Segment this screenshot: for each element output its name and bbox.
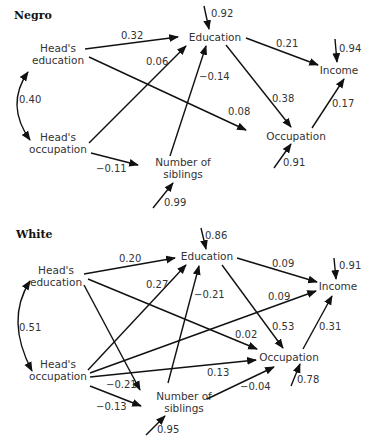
- node-income: Income: [319, 280, 358, 292]
- node-heads-occupation-line2: occupation: [29, 143, 87, 155]
- coef-heads-edu-siblings: −0.21: [106, 379, 137, 390]
- node-siblings-line2: siblings: [164, 402, 204, 414]
- coef-heads-occ-education: 0.27: [146, 279, 168, 290]
- node-siblings-line1: Number of: [155, 156, 211, 168]
- node-occupation: Occupation: [266, 130, 326, 142]
- coef-heads-edu-education: 0.20: [119, 253, 141, 264]
- node-heads-education-line1: Head's: [40, 42, 76, 54]
- panel-negro: Negro Head's education Head's occupation…: [14, 6, 361, 208]
- coef-occupation-income: 0.17: [332, 98, 354, 109]
- edge-heads-occ-to-education: [89, 46, 186, 143]
- node-heads-occupation-line1: Head's: [40, 131, 76, 143]
- node-heads-education-line1: Head's: [38, 264, 74, 276]
- node-occupation: Occupation: [259, 351, 319, 363]
- node-siblings-line2: siblings: [163, 168, 203, 180]
- node-education: Education: [181, 250, 233, 262]
- edge-siblings-to-education: [168, 266, 199, 383]
- coef-siblings-occupation: −0.04: [240, 381, 271, 392]
- coef-education-income: 0.21: [276, 38, 298, 49]
- coef-siblings-education: −0.14: [199, 71, 230, 82]
- coef-residual-siblings: 0.95: [157, 424, 179, 435]
- coef-heads-occ-siblings: −0.11: [96, 163, 127, 174]
- residual-education-arrow: [204, 6, 209, 29]
- coef-residual-siblings: 0.99: [164, 197, 186, 208]
- coef-heads-edu-occupation: 0.02: [235, 329, 257, 340]
- residual-income-arrow: [334, 258, 336, 279]
- coef-heads-occ-income: 0.09: [268, 291, 290, 302]
- edge-heads-edu-to-occupation: [88, 279, 257, 349]
- coef-residual-occupation: 0.78: [297, 374, 319, 385]
- panel-title: White: [15, 228, 53, 241]
- coef-education-occupation: 0.53: [272, 321, 294, 332]
- node-income: Income: [320, 64, 359, 76]
- node-siblings-line1: Number of: [156, 390, 212, 402]
- coef-siblings-education: −0.21: [194, 289, 225, 300]
- node-heads-education-line2: education: [30, 276, 82, 288]
- node-heads-education-line2: education: [32, 54, 84, 66]
- coef-occupation-income: 0.31: [319, 321, 341, 332]
- panel-white: White Head's education Head's occupation…: [15, 228, 361, 435]
- node-heads-occupation-line2: occupation: [29, 370, 87, 382]
- edge-siblings-to-education: [170, 46, 206, 156]
- coef-residual-education: 0.92: [211, 8, 233, 19]
- residual-income-arrow: [335, 39, 337, 62]
- node-heads-occupation-line1: Head's: [40, 358, 76, 370]
- coef-heads-occ-education: 0.06: [146, 56, 168, 67]
- node-education: Education: [189, 31, 241, 43]
- edge-heads-occ-to-education: [88, 265, 186, 370]
- panel-title: Negro: [14, 9, 52, 22]
- coef-residual-income: 0.91: [339, 260, 361, 271]
- coef-residual-education: 0.86: [205, 230, 227, 241]
- coef-correlation: 0.51: [19, 322, 41, 333]
- coef-heads-occ-siblings: −0.13: [96, 401, 127, 412]
- path-diagram: Negro Head's education Head's occupation…: [0, 0, 371, 441]
- correlation-arc: [17, 72, 30, 140]
- coef-heads-occ-occupation: 0.13: [207, 367, 229, 378]
- coef-education-occupation: 0.38: [272, 93, 294, 104]
- coef-education-income: 0.09: [272, 258, 294, 269]
- coef-heads-edu-occupation: 0.08: [228, 106, 250, 117]
- coef-heads-edu-education: 0.32: [121, 30, 143, 41]
- coef-residual-income: 0.94: [339, 43, 361, 54]
- coef-correlation: 0.40: [19, 94, 41, 105]
- coef-residual-occupation: 0.91: [283, 157, 305, 168]
